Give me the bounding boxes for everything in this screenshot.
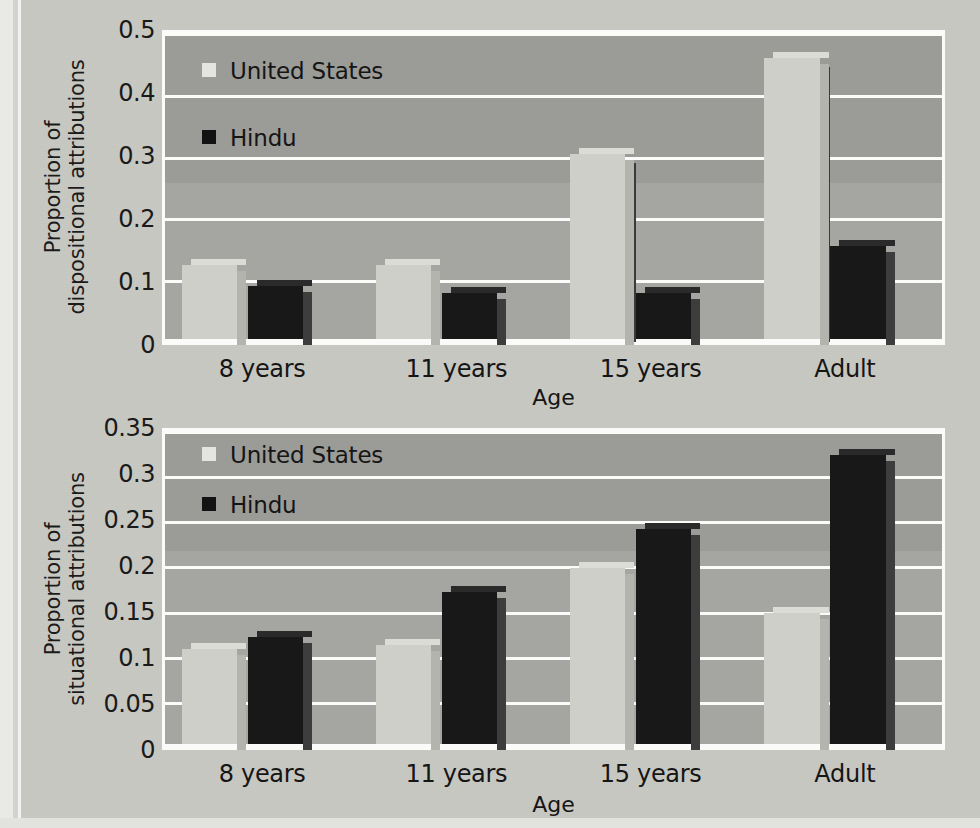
- bar-side-3d: [497, 299, 506, 345]
- bar-united-states: [376, 265, 431, 339]
- bar-united-states: [764, 58, 819, 339]
- x-axis-category-label: 15 years: [600, 355, 702, 383]
- bar-united-states: [182, 265, 237, 339]
- legend-swatch-icon: [202, 63, 219, 80]
- bar-hindu: [248, 637, 303, 744]
- bar-side-3d: [497, 598, 506, 750]
- x-axis-category-label: 8 years: [219, 760, 306, 788]
- bar-side-3d: [691, 299, 700, 345]
- x-axis-title-chart2: Age: [532, 792, 575, 817]
- legend-swatch-icon: [202, 130, 219, 147]
- y-tick-label: 0: [140, 736, 155, 764]
- bar-hindu: [636, 293, 691, 339]
- y-tick-label: 0.05: [104, 690, 155, 718]
- bar-side-3d: [303, 292, 312, 345]
- chart-dispositional-attributions: Proportion of dispositional attributions…: [0, 0, 980, 410]
- legend-chart1: United StatesHindu: [202, 30, 562, 170]
- legend-label: United States: [230, 442, 383, 468]
- bar-face: [830, 455, 885, 744]
- y-tick-label: 0: [140, 331, 155, 359]
- bar-face: [636, 529, 691, 744]
- y-tick-label: 0.15: [104, 598, 155, 626]
- legend-label: Hindu: [230, 125, 296, 151]
- y-tick-label: 0.1: [118, 268, 155, 296]
- y-tick-label: 0.5: [118, 16, 155, 44]
- bar-face: [182, 265, 237, 339]
- x-axis-category-label: 8 years: [219, 355, 306, 383]
- bar-united-states: [376, 645, 431, 744]
- bar-side-3d: [625, 574, 634, 750]
- x-axis-category-label: Adult: [814, 760, 875, 788]
- y-tick-label: 0.3: [118, 460, 155, 488]
- legend-swatch-icon: [202, 497, 219, 514]
- bar-hindu: [442, 293, 497, 339]
- bar-united-states: [570, 154, 625, 339]
- y-axis-ticks-chart1: 00.10.20.30.40.5: [0, 0, 155, 400]
- bar-side-3d: [237, 655, 246, 750]
- bar-side-3d: [237, 271, 246, 345]
- bar-united-states: [764, 613, 819, 744]
- bar-side-3d: [625, 160, 634, 345]
- bar-face: [764, 58, 819, 339]
- bar-face: [442, 592, 497, 744]
- legend-item-hindu[interactable]: Hindu: [202, 125, 296, 151]
- bar-hindu: [248, 286, 303, 339]
- legend-item-united-states[interactable]: United States: [202, 442, 383, 468]
- bar-face: [570, 154, 625, 339]
- x-axis-category-label: 11 years: [405, 355, 507, 383]
- y-tick-label: 0.3: [118, 142, 155, 170]
- bar-hindu: [830, 455, 885, 744]
- bar-united-states: [182, 649, 237, 744]
- bar-side-3d: [303, 643, 312, 750]
- legend-chart2: United StatesHindu: [202, 428, 562, 568]
- bar-side-3d: [820, 64, 829, 345]
- bar-hindu: [636, 529, 691, 744]
- y-tick-label: 0.25: [104, 506, 155, 534]
- bar-hindu: [830, 246, 885, 339]
- bar-face: [182, 649, 237, 744]
- chart-situational-attributions: Proportion of situational attributions 0…: [0, 410, 980, 828]
- bar-face: [442, 293, 497, 339]
- bar-face: [248, 286, 303, 339]
- x-axis-category-label: Adult: [814, 355, 875, 383]
- bar-face: [764, 613, 819, 744]
- bar-united-states: [570, 568, 625, 744]
- bar-side-3d: [886, 461, 895, 750]
- bar-face: [248, 637, 303, 744]
- bar-hindu: [442, 592, 497, 744]
- legend-item-united-states[interactable]: United States: [202, 58, 383, 84]
- bar-face: [636, 293, 691, 339]
- bar-side-3d: [886, 252, 895, 345]
- x-axis-title-chart1: Age: [532, 385, 575, 410]
- bar-side-3d: [431, 271, 440, 345]
- legend-label: United States: [230, 58, 383, 84]
- bar-face: [830, 246, 885, 339]
- legend-item-hindu[interactable]: Hindu: [202, 492, 296, 518]
- bar-side-3d: [431, 651, 440, 750]
- y-tick-label: 0.2: [118, 552, 155, 580]
- y-tick-label: 0.4: [118, 79, 155, 107]
- bar-face: [376, 265, 431, 339]
- bar-side-3d: [820, 619, 829, 750]
- y-tick-label: 0.1: [118, 644, 155, 672]
- bar-side-3d: [691, 535, 700, 750]
- bar-face: [376, 645, 431, 744]
- x-axis-category-label: 15 years: [600, 760, 702, 788]
- x-axis-category-label: 11 years: [405, 760, 507, 788]
- y-tick-label: 0.2: [118, 205, 155, 233]
- y-tick-label: 0.35: [104, 414, 155, 442]
- y-axis-ticks-chart2: 00.050.10.150.20.250.30.35: [0, 410, 155, 810]
- legend-label: Hindu: [230, 492, 296, 518]
- bar-face: [570, 568, 625, 744]
- legend-swatch-icon: [202, 447, 219, 464]
